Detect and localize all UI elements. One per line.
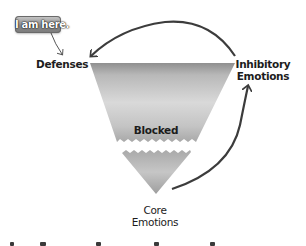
cropped-text-fragment <box>10 242 14 246</box>
cropped-text-fragment <box>96 242 101 246</box>
triangle-lower <box>122 150 191 194</box>
i-am-here-badge: I am here. <box>15 16 61 33</box>
inhibitory-emotions-label: Inhibitory Emotions <box>234 58 292 82</box>
triangle-of-conflict-diagram: I am here. Defenses Inhibitory Emotions … <box>0 0 306 246</box>
defenses-label: Defenses <box>36 58 88 70</box>
arrow-inhibitory-to-defenses <box>91 22 235 56</box>
arrow-badge-to-defenses <box>51 33 62 54</box>
cropped-text-fragment <box>154 242 159 246</box>
cropped-text-fragment <box>210 242 215 246</box>
blocked-label: Blocked <box>125 124 187 136</box>
core-emotions-label: Core Emotions <box>124 204 186 228</box>
cropped-text-fragment <box>40 242 46 246</box>
